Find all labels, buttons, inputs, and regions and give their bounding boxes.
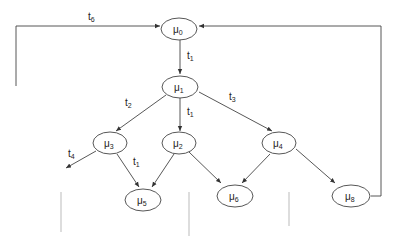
edge-label-t6: t6 [88, 11, 95, 23]
node-mu4: μ4 [262, 132, 296, 154]
node-mu8: μ8 [332, 185, 370, 207]
edge-label-t4: t4 [68, 148, 75, 160]
edge-label-t3: t3 [229, 91, 236, 103]
edge-label-t1-top: t1 [187, 50, 194, 62]
edge-t6-loop [16, 26, 160, 86]
node-mu1: μ1 [162, 76, 198, 98]
edge-label-t1-mid: t1 [187, 106, 194, 118]
node-mu5: μ5 [125, 189, 161, 211]
edge-mu2-to-mu6 [189, 152, 221, 183]
node-mu2: μ2 [162, 132, 196, 154]
edge-label-t2: t2 [125, 97, 132, 109]
edge-mu2-to-mu5 [152, 154, 174, 187]
state-graph: μ0 μ1 μ3 μ2 μ4 μ5 μ6 μ8 t6 t1 t2 t1 t3 t… [0, 0, 396, 240]
node-mu6: μ6 [217, 185, 253, 207]
edge-mu4-to-mu6 [242, 154, 270, 183]
node-mu0: μ0 [161, 18, 197, 40]
edge-mu4-to-mu8 [296, 149, 335, 183]
edge-mu8-to-mu0 [199, 26, 381, 196]
edge-label-t1-low: t1 [133, 156, 140, 168]
edge-mu1-to-mu3 [116, 95, 166, 131]
node-mu3: μ3 [93, 132, 127, 154]
